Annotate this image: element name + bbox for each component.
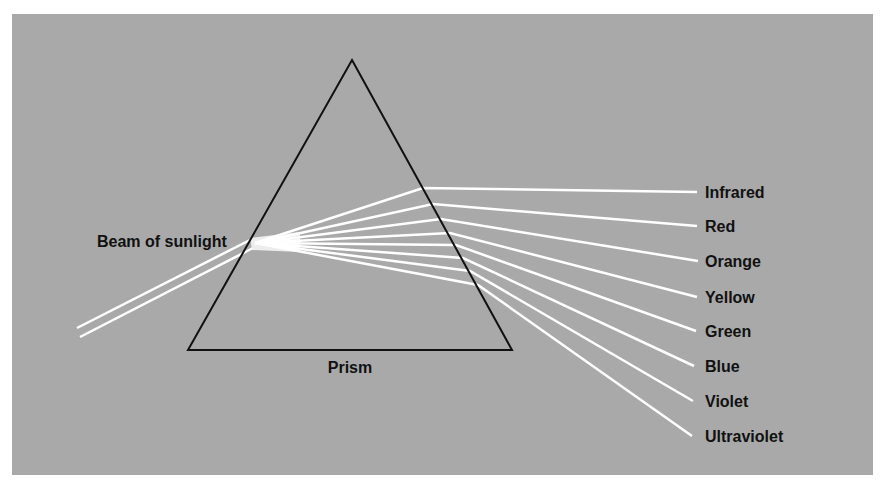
sunlight-beam-line-upper xyxy=(77,240,250,328)
ray-violet xyxy=(255,243,693,401)
label-infrared: Infrared xyxy=(705,184,765,201)
label-yellow: Yellow xyxy=(705,289,755,306)
label-ultraviolet: Ultraviolet xyxy=(705,428,784,445)
label-green: Green xyxy=(705,323,751,340)
label-red: Red xyxy=(705,218,735,235)
sunlight-beam xyxy=(77,240,253,337)
label-violet: Violet xyxy=(705,393,749,410)
prism-label: Prism xyxy=(328,359,372,376)
sunlight-beam-line-lower xyxy=(80,248,253,337)
prism-diagram: Beam of sunlight Prism InfraredRedOrange… xyxy=(0,0,881,488)
prism-triangle xyxy=(188,60,512,350)
beam-of-sunlight-label: Beam of sunlight xyxy=(97,233,227,250)
label-orange: Orange xyxy=(705,253,761,270)
label-blue: Blue xyxy=(705,358,740,375)
spectrum-rays xyxy=(255,188,698,436)
ray-blue xyxy=(255,243,694,366)
spectrum-labels: InfraredRedOrangeYellowGreenBlueVioletUl… xyxy=(705,184,784,445)
